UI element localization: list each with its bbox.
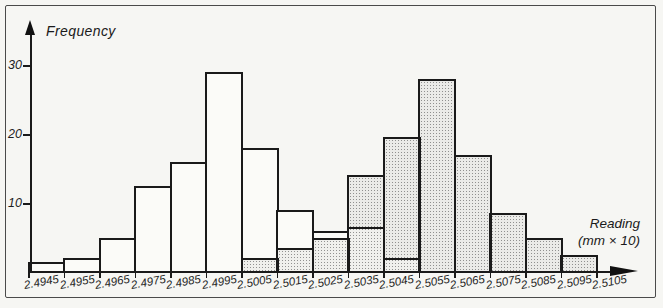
y-axis-tick [23,203,31,205]
histogram-bar-stippled [454,155,492,273]
histogram-bar-stippled [489,213,527,273]
histogram-bar-open [241,148,279,273]
histogram-bar-open [99,238,137,274]
y-tick-label: 20 [0,127,22,141]
histogram-bar-stippled [383,137,421,273]
histogram-bar-open [170,162,208,273]
histogram-bar-stippled [312,238,350,274]
y-tick-label: 30 [0,58,22,72]
x-axis-title-line2: (mm × 10) [530,232,640,249]
y-axis-tick [23,65,31,67]
histogram-bar-stippled [276,248,314,273]
y-axis-title: Frequency [46,23,116,39]
x-axis-title-line1: Reading [530,215,640,232]
histogram-figure: 102030 2.49452.49552.49652.49752.49852.4… [0,0,663,308]
y-axis-arrow-icon [25,20,35,35]
histogram-bar-stippled [347,175,385,273]
histogram-bar-stippled [418,79,456,273]
y-axis-tick [23,134,31,136]
x-axis-title: Reading (mm × 10) [530,215,640,249]
histogram-bar-open [205,72,243,273]
y-tick-label: 10 [0,196,22,210]
plot-area: 102030 2.49452.49552.49652.49752.49852.4… [0,0,663,308]
histogram-bar-open [134,186,172,273]
